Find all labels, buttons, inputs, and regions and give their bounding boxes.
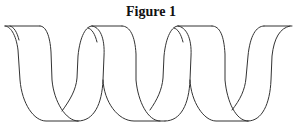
ribbon-edge: [212, 26, 248, 121]
ribbon-edge: [5, 26, 78, 121]
ribbon-edge: [150, 26, 178, 110]
ribbon-edge: [165, 26, 191, 121]
twisted-ribbon-diagram: [0, 0, 302, 128]
ribbon-edge: [122, 26, 160, 121]
ribbon-edge: [174, 28, 183, 42]
ribbon-edge: [78, 26, 104, 121]
figure: Figure 1: [0, 0, 302, 128]
ribbon-edge: [10, 26, 19, 40]
ribbon-edge: [40, 26, 78, 121]
ribbon-edge: [62, 26, 92, 111]
ribbon-edge: [88, 28, 97, 42]
ribbon-edge: [248, 26, 290, 121]
ribbon-edge: [190, 80, 248, 121]
ribbon-edge: [232, 26, 264, 110]
